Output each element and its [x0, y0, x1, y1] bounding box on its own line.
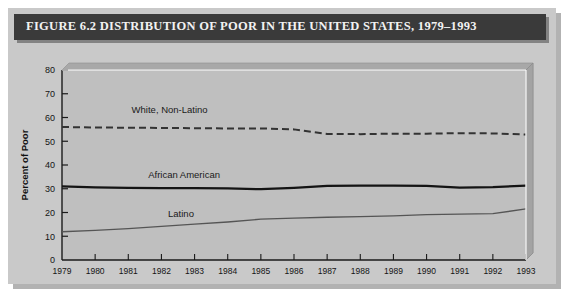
x-tick-label: 1983 — [185, 266, 204, 276]
y-tick-label: 0 — [50, 255, 55, 265]
figure-title: FIGURE 6.2 DISTRIBUTION OF POOR IN THE U… — [26, 19, 477, 34]
y-tick-label: 60 — [45, 113, 55, 123]
x-tick-label: 1982 — [152, 266, 171, 276]
series-label-2: Latino — [168, 208, 194, 219]
x-tick-label: 1981 — [119, 266, 138, 276]
figure-plate: FIGURE 6.2 DISTRIBUTION OF POOR IN THE U… — [8, 8, 556, 284]
plot-background — [62, 70, 526, 260]
x-tick-label: 1979 — [53, 266, 72, 276]
y-tick-label: 30 — [45, 184, 55, 194]
x-tick-label: 1985 — [251, 266, 270, 276]
series-label-0: White, Non-Latino — [132, 104, 208, 115]
y-axis-title: Percent of Poor — [19, 129, 30, 200]
series-label-1: African American — [148, 169, 220, 180]
y-tick-label: 70 — [45, 89, 55, 99]
x-tick-label: 1992 — [483, 266, 502, 276]
x-tick-label: 1988 — [351, 266, 370, 276]
plot-right-wall — [526, 63, 533, 260]
x-tick-label: 1989 — [384, 266, 403, 276]
x-tick-label: 1990 — [417, 266, 436, 276]
line-chart: 0102030405060708019791980198119821983198… — [14, 44, 550, 278]
x-tick-label: 1984 — [218, 266, 237, 276]
x-tick-label: 1991 — [450, 266, 469, 276]
y-tick-label: 80 — [45, 65, 55, 75]
y-tick-label: 10 — [45, 232, 55, 242]
figure-title-bar: FIGURE 6.2 DISTRIBUTION OF POOR IN THE U… — [14, 14, 546, 40]
x-tick-label: 1986 — [285, 266, 304, 276]
y-tick-label: 50 — [45, 137, 55, 147]
plot-top-face — [62, 63, 533, 70]
y-tick-label: 40 — [45, 160, 55, 170]
chart-area: 0102030405060708019791980198119821983198… — [14, 44, 550, 278]
x-tick-label: 1993 — [517, 266, 536, 276]
figure-root: FIGURE 6.2 DISTRIBUTION OF POOR IN THE U… — [0, 0, 570, 304]
x-tick-label: 1980 — [86, 266, 105, 276]
y-tick-label: 20 — [45, 208, 55, 218]
x-tick-label: 1987 — [318, 266, 337, 276]
